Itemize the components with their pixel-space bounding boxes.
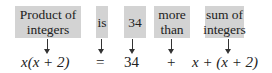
phrase-text: sum of xyxy=(203,7,246,22)
math-expression: x + (x + 2) xyxy=(192,54,258,70)
phrase-box-more-than: more than xyxy=(154,6,190,38)
phrase-box-product: Product of integers xyxy=(15,6,81,38)
phrase-box-sum: sum of integers xyxy=(205,6,244,38)
phrase-box-value: 34 xyxy=(124,6,146,38)
phrase-text: integers xyxy=(203,22,246,37)
phrase-text: 34 xyxy=(128,15,142,30)
down-arrow-icon xyxy=(101,39,102,50)
math-expression: x(x + 2) xyxy=(21,54,69,70)
phrase-text: more xyxy=(158,7,186,22)
phrase-text: than xyxy=(158,22,186,37)
phrase-text: is xyxy=(97,15,106,30)
equation-plus: + xyxy=(167,54,175,70)
down-arrow-icon xyxy=(228,39,229,50)
equation-term-product: x(x + 2) xyxy=(21,54,69,70)
equation-equals: = xyxy=(96,54,104,70)
equation-term-sum: x + (x + 2) xyxy=(192,54,258,70)
phrase-text: Product of xyxy=(20,7,77,22)
down-arrow-icon xyxy=(171,39,172,50)
phrase-box-is: is xyxy=(96,6,108,38)
down-arrow-icon xyxy=(132,39,133,50)
phrase-text: integers xyxy=(20,22,77,37)
equation-value: 34 xyxy=(124,54,139,70)
down-arrow-icon xyxy=(47,39,48,50)
